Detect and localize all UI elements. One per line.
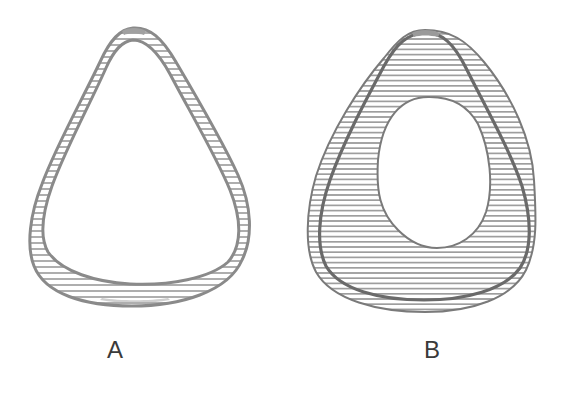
panel-label-b: B (424, 338, 440, 362)
panel-a-shape (30, 28, 250, 306)
panel-a-wall (30, 28, 250, 306)
panel-b-shape (308, 30, 536, 312)
panel-label-a: A (107, 338, 123, 362)
figure-diagram (0, 0, 564, 394)
panel-b-wall (308, 30, 536, 312)
